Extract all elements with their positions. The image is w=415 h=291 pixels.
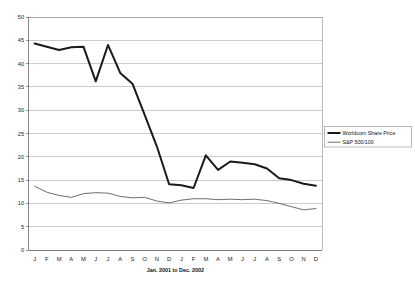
x-tick-label: A bbox=[118, 256, 122, 262]
y-axis-tick-labels: 05101520253035404550 bbox=[18, 14, 24, 253]
x-tick-label: J bbox=[33, 256, 36, 262]
x-tick-label: A bbox=[265, 256, 269, 262]
x-tick-label: F bbox=[192, 256, 196, 262]
y-tick-label: 25 bbox=[18, 131, 24, 137]
y-tick-label: 0 bbox=[21, 247, 24, 253]
x-tick-label: F bbox=[45, 256, 49, 262]
x-tick-label: M bbox=[81, 256, 86, 262]
x-tick-label: S bbox=[131, 256, 135, 262]
legend-label-2: S&P 500/100 bbox=[343, 139, 374, 145]
x-axis-title: Jan. 2001 to Dec. 2002 bbox=[147, 267, 204, 273]
x-tick-label: M bbox=[228, 256, 233, 262]
x-tick-label: S bbox=[277, 256, 281, 262]
x-tick-label: J bbox=[107, 256, 110, 262]
series-line-1 bbox=[35, 44, 316, 188]
x-tick-label: J bbox=[241, 256, 244, 262]
data-series-group bbox=[35, 44, 316, 210]
chart-legend: Worldcom Share PriceS&P 500/100 bbox=[325, 127, 412, 148]
y-tick-label: 30 bbox=[18, 107, 24, 113]
y-tick-label: 15 bbox=[18, 177, 24, 183]
y-tick-label: 40 bbox=[18, 61, 24, 67]
chart-container: 05101520253035404550 JFMAMJJASONDJFMAMJJ… bbox=[0, 0, 415, 291]
x-tick-label: D bbox=[167, 256, 171, 262]
gridlines bbox=[29, 17, 323, 250]
x-tick-label: D bbox=[314, 256, 318, 262]
series-line-2 bbox=[35, 186, 316, 210]
y-tick-label: 20 bbox=[18, 154, 24, 160]
y-tick-label: 35 bbox=[18, 84, 24, 90]
y-tick-label: 50 bbox=[18, 14, 24, 20]
x-tick-label: A bbox=[69, 256, 73, 262]
y-axis-tick-marks bbox=[26, 17, 29, 250]
x-tick-label: N bbox=[155, 256, 159, 262]
x-tick-label: M bbox=[203, 256, 208, 262]
x-tick-label: O bbox=[142, 256, 147, 262]
line-chart: 05101520253035404550 JFMAMJJASONDJFMAMJJ… bbox=[0, 0, 415, 291]
y-tick-label: 10 bbox=[18, 200, 24, 206]
legend-label-1: Worldcom Share Price bbox=[343, 130, 396, 136]
x-tick-label: J bbox=[180, 256, 183, 262]
y-tick-label: 45 bbox=[18, 37, 24, 43]
x-tick-label: J bbox=[253, 256, 256, 262]
y-tick-label: 5 bbox=[21, 224, 24, 230]
x-tick-label: N bbox=[302, 256, 306, 262]
x-tick-label: J bbox=[94, 256, 97, 262]
x-axis-tick-labels: JFMAMJJASONDJFMAMJJASOND bbox=[33, 256, 318, 262]
x-tick-label: O bbox=[289, 256, 294, 262]
x-tick-label: M bbox=[57, 256, 62, 262]
x-tick-label: A bbox=[216, 256, 220, 262]
